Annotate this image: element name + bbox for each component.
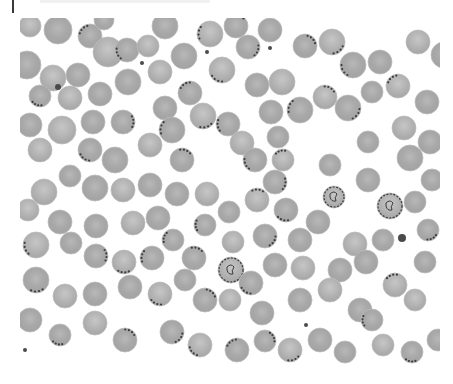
red-blood-cell	[20, 18, 41, 37]
red-blood-cell	[81, 110, 105, 134]
infected-cell	[170, 148, 194, 172]
infected-cell	[236, 35, 260, 59]
infected-cell	[335, 95, 361, 121]
red-blood-cell	[20, 51, 41, 79]
red-blood-cell	[263, 253, 287, 277]
infected-cell	[178, 81, 202, 105]
infected-cell	[190, 103, 216, 129]
infected-cell	[263, 170, 287, 194]
red-blood-cell	[308, 328, 332, 352]
infected-cell	[188, 333, 212, 357]
red-blood-cell	[59, 165, 81, 187]
red-blood-cell	[171, 43, 197, 69]
red-blood-cell	[121, 211, 145, 235]
debris-particle	[23, 348, 27, 352]
infected-cell	[162, 229, 184, 251]
infected-cell	[386, 74, 410, 98]
infected-cell	[383, 273, 407, 297]
red-blood-cell	[165, 182, 189, 206]
red-blood-cell	[195, 182, 219, 206]
infected-cell	[340, 52, 366, 78]
infected-cell	[253, 224, 277, 248]
infected-cell-schizont	[323, 186, 345, 208]
blood-smear-micrograph	[20, 18, 440, 366]
infected-cell	[272, 149, 294, 171]
red-blood-cell	[288, 228, 312, 252]
red-blood-cell	[88, 82, 112, 106]
red-blood-cell	[414, 251, 436, 273]
red-blood-cell	[83, 282, 107, 306]
red-blood-cell	[66, 63, 90, 87]
infected-cell	[84, 244, 108, 268]
red-blood-cell	[174, 269, 196, 291]
infected-cell	[225, 338, 249, 362]
infected-cell	[417, 219, 439, 241]
red-blood-cell	[83, 311, 107, 335]
infected-cell	[278, 338, 302, 362]
red-blood-cell	[427, 329, 440, 351]
red-blood-cells	[20, 18, 440, 363]
red-blood-cell	[404, 289, 426, 311]
infected-cell	[197, 21, 223, 47]
red-blood-cell	[318, 278, 342, 302]
red-blood-cell	[20, 308, 42, 332]
red-blood-cell	[404, 191, 426, 213]
infected-cell	[254, 330, 276, 352]
red-blood-cell	[357, 131, 379, 153]
infected-cell	[239, 271, 263, 295]
red-blood-cell	[421, 169, 440, 191]
red-blood-cell	[58, 86, 82, 110]
debris-particle	[268, 46, 272, 50]
red-blood-cell	[82, 175, 108, 201]
infected-cell	[193, 288, 217, 312]
red-blood-cell	[20, 113, 42, 137]
infected-cell	[287, 97, 313, 123]
red-blood-cell	[152, 18, 178, 39]
red-blood-cell	[356, 168, 380, 192]
red-blood-cell	[259, 100, 283, 124]
infected-cell	[182, 246, 206, 270]
red-blood-cell	[418, 130, 440, 154]
infected-cell	[115, 38, 139, 62]
red-blood-cell	[397, 145, 423, 171]
infected-cell	[401, 341, 423, 363]
infected-cell	[361, 309, 383, 331]
red-blood-cell	[138, 133, 162, 157]
red-blood-cell	[406, 30, 430, 54]
red-blood-cell	[102, 147, 128, 173]
infected-cell	[293, 34, 317, 58]
red-blood-cell	[334, 341, 356, 363]
red-blood-cell	[372, 229, 394, 251]
infected-cell	[159, 117, 185, 143]
red-blood-cell	[288, 288, 312, 312]
red-blood-cell	[48, 116, 76, 144]
infected-cell-schizont	[377, 193, 403, 219]
infected-cell	[224, 18, 248, 38]
red-blood-cell	[431, 42, 440, 68]
infected-cell	[140, 246, 164, 270]
debris-particle	[398, 234, 406, 242]
red-blood-cell	[319, 154, 341, 176]
infected-cell	[112, 250, 136, 274]
infected-cell	[111, 110, 135, 134]
red-blood-cell	[53, 284, 77, 308]
red-blood-cell	[111, 178, 135, 202]
red-blood-cell	[269, 69, 295, 95]
red-blood-cell	[291, 256, 315, 280]
red-blood-cell	[250, 301, 274, 325]
cropped-caption-text	[40, 0, 210, 3]
red-blood-cell	[361, 81, 383, 103]
infected-cell	[23, 232, 49, 258]
infected-cell	[160, 320, 184, 344]
debris-particle	[140, 61, 144, 65]
red-blood-cell	[115, 69, 141, 95]
red-blood-cell	[28, 138, 52, 162]
red-blood-cell	[137, 35, 159, 57]
red-blood-cell	[146, 206, 170, 230]
debris-particle	[304, 323, 308, 327]
red-blood-cell	[372, 334, 394, 356]
red-blood-cell	[153, 96, 177, 120]
red-blood-cell	[415, 90, 439, 114]
red-blood-cell	[44, 18, 72, 44]
red-blood-cell	[392, 116, 416, 140]
